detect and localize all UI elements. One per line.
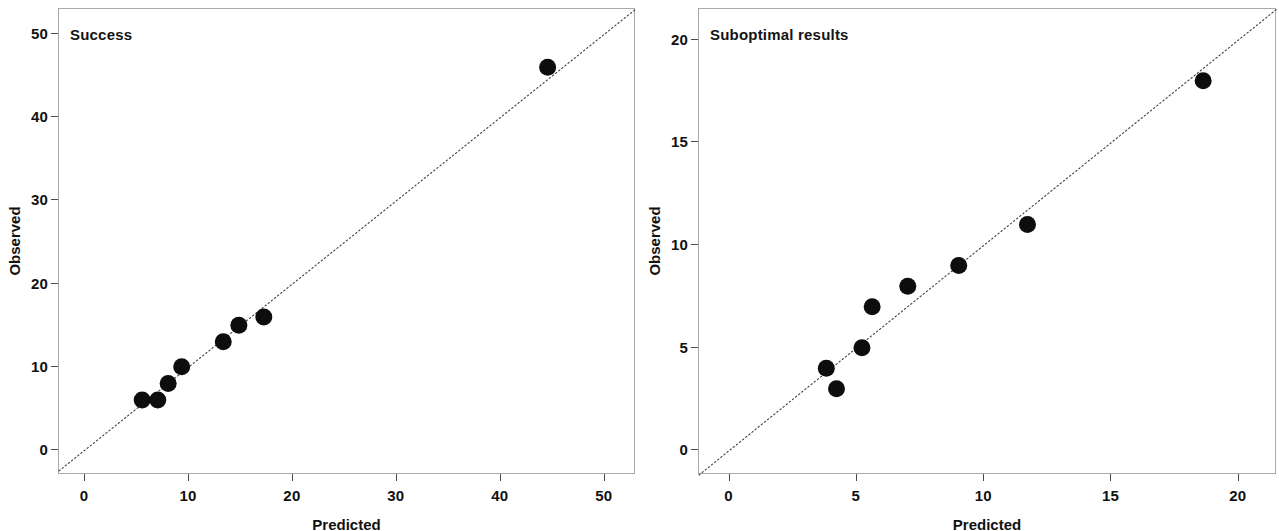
x-tick-mark — [292, 474, 293, 481]
data-point — [1019, 216, 1036, 233]
y-tick-mark — [51, 283, 58, 284]
y-tick-mark — [51, 449, 58, 450]
x-tick-mark — [604, 474, 605, 481]
scatter-svg-success — [59, 9, 636, 475]
figure-canvas: Success Predicted Observed 0102030405001… — [0, 0, 1279, 531]
x-tick-label: 10 — [975, 487, 992, 504]
data-series — [134, 59, 556, 409]
y-tick-label: 0 — [12, 441, 48, 458]
data-point — [255, 308, 272, 325]
y-tick-mark — [51, 199, 58, 200]
chart-panel-success: Success Predicted Observed 0102030405001… — [0, 0, 640, 531]
x-tick-label: 0 — [80, 487, 89, 504]
data-point — [828, 380, 845, 397]
x-tick-mark — [188, 474, 189, 481]
data-point — [149, 392, 166, 409]
panel-title-success: Success — [70, 26, 132, 43]
x-tick-label: 20 — [1229, 487, 1246, 504]
x-tick-mark — [500, 474, 501, 481]
y-tick-mark — [51, 116, 58, 117]
y-tick-mark — [691, 347, 698, 348]
x-tick-label: 5 — [852, 487, 861, 504]
y-tick-mark — [691, 141, 698, 142]
data-point — [134, 392, 151, 409]
x-tick-label: 0 — [724, 487, 733, 504]
y-tick-label: 15 — [652, 133, 688, 150]
data-point — [899, 278, 916, 295]
x-tick-label: 20 — [283, 487, 300, 504]
y-tick-label: 20 — [12, 274, 48, 291]
panel-title-suboptimal: Suboptimal results — [710, 26, 849, 43]
data-point — [1195, 72, 1212, 89]
x-tick-label: 50 — [595, 487, 612, 504]
y-tick-label: 10 — [652, 236, 688, 253]
data-point — [864, 298, 881, 315]
data-point — [853, 339, 870, 356]
data-point — [818, 360, 835, 377]
x-tick-label: 40 — [491, 487, 508, 504]
x-axis-title-success: Predicted — [312, 516, 380, 531]
y-tick-mark — [691, 39, 698, 40]
chart-panel-suboptimal: Suboptimal results Predicted Observed 05… — [640, 0, 1279, 531]
x-tick-mark — [1110, 474, 1111, 481]
y-tick-label: 30 — [12, 191, 48, 208]
y-axis-title-success: Observed — [6, 206, 23, 275]
y-tick-label: 50 — [12, 24, 48, 41]
data-point — [215, 333, 232, 350]
x-axis-title-suboptimal: Predicted — [953, 516, 1021, 531]
y-tick-mark — [691, 244, 698, 245]
plot-area-suboptimal — [698, 8, 1276, 474]
x-tick-mark — [729, 474, 730, 481]
x-tick-label: 15 — [1102, 487, 1119, 504]
x-tick-mark — [84, 474, 85, 481]
data-series — [818, 72, 1212, 397]
y-tick-mark — [691, 449, 698, 450]
scatter-svg-suboptimal — [699, 9, 1277, 475]
y-tick-label: 0 — [652, 441, 688, 458]
data-point — [539, 59, 556, 76]
x-tick-mark — [856, 474, 857, 481]
data-point — [230, 317, 247, 334]
x-tick-label: 30 — [387, 487, 404, 504]
x-tick-mark — [983, 474, 984, 481]
plot-area-success — [58, 8, 635, 474]
identity-reference-line — [699, 9, 1277, 475]
y-tick-label: 5 — [652, 338, 688, 355]
data-point — [950, 257, 967, 274]
data-point — [173, 358, 190, 375]
y-tick-mark — [51, 33, 58, 34]
x-tick-mark — [1238, 474, 1239, 481]
data-point — [160, 375, 177, 392]
y-tick-label: 10 — [12, 357, 48, 374]
y-tick-label: 20 — [652, 30, 688, 47]
x-tick-label: 10 — [179, 487, 196, 504]
x-tick-mark — [396, 474, 397, 481]
y-tick-mark — [51, 366, 58, 367]
y-tick-label: 40 — [12, 108, 48, 125]
